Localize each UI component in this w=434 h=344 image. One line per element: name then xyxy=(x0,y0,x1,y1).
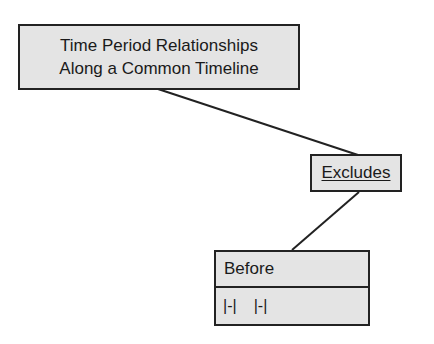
class-box-before[interactable]: Before |-| |-| xyxy=(214,250,370,326)
class-body: |-| |-| xyxy=(216,288,368,324)
relation-label[interactable]: Excludes xyxy=(322,163,391,183)
relation-box-excludes[interactable]: Excludes xyxy=(310,154,402,192)
interval-icon: |-| xyxy=(254,297,268,315)
class-header: Before xyxy=(216,252,368,288)
root-concept-line-1: Time Period Relationships xyxy=(60,34,258,57)
connector-root-to-excludes xyxy=(158,89,358,155)
root-concept-box[interactable]: Time Period Relationships Along a Common… xyxy=(18,24,300,90)
root-concept-line-2: Along a Common Timeline xyxy=(59,57,258,80)
connector-excludes-to-before xyxy=(292,192,359,250)
interval-icon: |-| xyxy=(223,297,237,315)
class-name: Before xyxy=(224,259,274,279)
